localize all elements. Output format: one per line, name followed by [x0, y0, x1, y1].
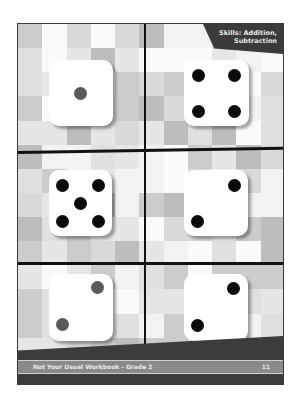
die-two [184, 170, 248, 236]
die-five [49, 170, 112, 236]
background-tile [18, 121, 42, 145]
background-tile [18, 24, 42, 48]
die-two [184, 274, 248, 341]
background-tile [91, 24, 115, 48]
background-tile [139, 96, 163, 120]
pip [56, 215, 69, 228]
pip [56, 318, 69, 331]
background-tile [18, 169, 42, 193]
column-divider [144, 24, 146, 385]
background-tile [18, 96, 42, 120]
background-tile [67, 145, 91, 169]
page-number: 11 [262, 361, 270, 373]
background-tile [139, 265, 163, 289]
background-tile [139, 169, 163, 193]
background-tile [18, 265, 42, 289]
background-tile [139, 289, 163, 313]
background-tile [261, 265, 284, 289]
die-two [49, 274, 113, 341]
background-tile [115, 314, 139, 338]
background-tile [261, 193, 284, 217]
die-one [49, 60, 113, 126]
background-tile [261, 121, 284, 145]
background-tile [67, 24, 91, 48]
background-tile [164, 121, 188, 145]
row-divider [18, 262, 284, 265]
pip [227, 282, 240, 295]
pip [192, 69, 205, 82]
background-tile [115, 121, 139, 145]
background-tile [261, 96, 284, 120]
pip [191, 215, 204, 228]
pip [74, 197, 87, 210]
background-tile [18, 72, 42, 96]
background-tile [42, 24, 66, 48]
background-tile [139, 193, 163, 217]
background-tile [42, 145, 66, 169]
skills-tag-line1: Skills: Addition, [203, 29, 277, 37]
background-tile [261, 217, 284, 241]
background-tile [18, 193, 42, 217]
skills-tag-line2: Subtraction [203, 37, 277, 45]
footer-bar: Not Your Usual Workbook - Grade 2 11 [18, 360, 284, 374]
background-tile [115, 289, 139, 313]
background-tile [115, 193, 139, 217]
background-tile [261, 72, 284, 96]
pip [228, 69, 241, 82]
background-tile [261, 169, 284, 193]
pip [56, 179, 69, 192]
pip [92, 179, 105, 192]
pip [191, 319, 204, 332]
background-tile [115, 265, 139, 289]
background-tile [115, 24, 139, 48]
background-tile [115, 217, 139, 241]
pip [228, 179, 241, 192]
footer-title: Not Your Usual Workbook - Grade 2 [33, 361, 152, 373]
background-tile [91, 145, 115, 169]
background-tile [115, 169, 139, 193]
background-tile [115, 48, 139, 72]
background-tile [139, 24, 163, 48]
background-tile [139, 121, 163, 145]
background-tile [139, 314, 163, 338]
pip [74, 87, 87, 100]
background-tile [18, 48, 42, 72]
die-four [184, 60, 249, 126]
background-tile [261, 289, 284, 313]
background-tile [164, 24, 188, 48]
pip [91, 281, 104, 294]
background-tile [139, 217, 163, 241]
background-tile [261, 314, 284, 338]
workbook-page: Skills: Addition, Subtraction Not Your U… [17, 23, 284, 385]
background-tile [18, 217, 42, 241]
background-tile [115, 72, 139, 96]
pip [92, 215, 105, 228]
pip [192, 105, 205, 118]
pip [228, 105, 241, 118]
background-tile [18, 314, 42, 338]
background-tile [18, 145, 42, 169]
background-tile [18, 289, 42, 313]
background-tile [139, 72, 163, 96]
background-tile [139, 48, 163, 72]
background-tile [115, 96, 139, 120]
